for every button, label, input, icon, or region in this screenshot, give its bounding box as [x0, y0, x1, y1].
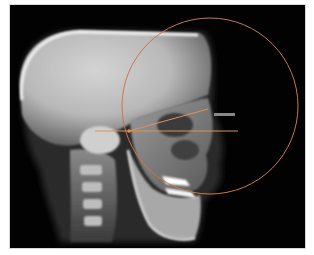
sinus: [171, 140, 199, 160]
nasion-marker: [214, 113, 235, 116]
landmark-point: [127, 129, 131, 133]
temporal-bone: [80, 126, 120, 154]
cephalometric-xray: [0, 0, 314, 255]
cervical-spine: [70, 149, 117, 242]
orbit: [157, 113, 193, 137]
